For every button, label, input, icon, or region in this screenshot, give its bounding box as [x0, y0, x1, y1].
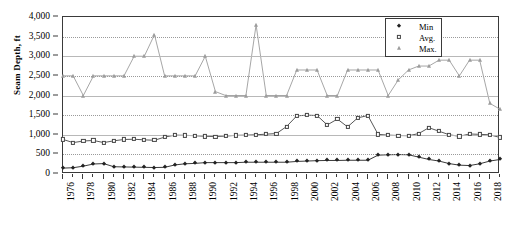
data-point-max	[213, 89, 217, 93]
x-tick-mark	[72, 174, 73, 177]
x-tick-mark	[469, 174, 470, 179]
gridline	[63, 154, 498, 156]
data-point-avg	[224, 134, 228, 138]
data-point-max	[285, 93, 289, 97]
data-point-max	[356, 68, 360, 72]
x-tick-mark	[489, 174, 490, 179]
data-point-max	[305, 68, 309, 72]
data-point-avg	[254, 133, 258, 137]
x-axis-tick-labels: 1976197819801982198419861988199019921994…	[62, 174, 499, 236]
x-tick-label: 1998	[290, 182, 300, 201]
data-point-max	[478, 58, 482, 62]
y-tick-label: 0	[45, 168, 50, 178]
data-point-avg	[132, 137, 136, 141]
data-point-avg	[61, 137, 65, 141]
gridline	[63, 135, 498, 137]
x-tick-label: 1986	[168, 182, 178, 201]
data-point-avg	[417, 131, 421, 135]
y-tick-mark	[53, 153, 58, 154]
y-axis-tick-labels: 05001,0001,5002,0002,5003,0003,5004,000	[0, 16, 58, 173]
data-point-max	[264, 93, 268, 97]
data-point-avg	[478, 132, 482, 136]
x-tick-mark	[123, 174, 124, 179]
x-tick-label: 2006	[371, 182, 381, 201]
legend-label-avg: Avg.	[419, 33, 435, 43]
data-point-avg	[91, 138, 95, 142]
x-tick-label: 2004	[351, 182, 361, 201]
y-tick-label: 4,000	[29, 11, 50, 21]
max-marker-icon	[389, 43, 415, 54]
data-point-avg	[203, 134, 207, 138]
data-point-max	[112, 74, 116, 78]
gridline	[63, 76, 498, 78]
x-tick-mark	[326, 174, 327, 179]
legend-label-max: Max.	[419, 44, 437, 54]
data-point-avg	[467, 132, 471, 136]
y-tick-mark	[53, 133, 58, 134]
data-point-avg	[396, 133, 400, 137]
data-point-avg	[213, 134, 217, 138]
min-marker-icon	[389, 21, 415, 32]
data-point-avg	[152, 138, 156, 142]
data-point-avg	[366, 113, 370, 117]
x-tick-mark	[143, 174, 144, 179]
data-point-avg	[345, 125, 349, 129]
x-tick-mark	[225, 174, 226, 179]
x-tick-mark	[245, 174, 246, 179]
x-tick-label: 2008	[391, 182, 401, 201]
x-tick-label: 1992	[229, 182, 239, 201]
x-tick-mark	[448, 174, 449, 179]
x-tick-mark	[367, 174, 368, 179]
data-point-max	[173, 74, 177, 78]
x-tick-label: 1988	[188, 182, 198, 201]
data-point-avg	[386, 133, 390, 137]
x-tick-mark	[92, 174, 93, 177]
chart-legend: Min Avg. Max.	[385, 18, 442, 57]
y-tick-label: 3,500	[29, 31, 50, 41]
y-tick-label: 500	[36, 148, 50, 158]
x-tick-label: 2000	[310, 182, 320, 201]
y-tick-mark	[53, 173, 58, 174]
data-point-max	[234, 93, 238, 97]
data-point-avg	[81, 139, 85, 143]
y-tick-label: 3,000	[29, 50, 50, 60]
y-tick-label: 2,000	[29, 90, 50, 100]
data-point-avg	[142, 138, 146, 142]
data-point-avg	[102, 141, 106, 145]
x-tick-mark	[153, 174, 154, 177]
x-tick-mark	[336, 174, 337, 177]
y-tick-mark	[53, 16, 58, 17]
y-tick-mark	[53, 55, 58, 56]
data-point-max	[437, 58, 441, 62]
data-point-max	[457, 74, 461, 78]
x-tick-mark	[255, 174, 256, 177]
x-tick-label: 1976	[66, 182, 76, 201]
data-point-avg	[112, 139, 116, 143]
x-tick-mark	[347, 174, 348, 179]
data-point-avg	[488, 133, 492, 137]
data-point-max	[142, 54, 146, 58]
data-point-max	[396, 78, 400, 82]
data-point-max	[335, 93, 339, 97]
data-point-avg	[437, 129, 441, 133]
data-point-max	[315, 68, 319, 72]
data-point-max	[417, 64, 421, 68]
x-tick-mark	[357, 174, 358, 177]
data-point-avg	[71, 141, 75, 145]
y-tick-mark	[53, 94, 58, 95]
data-point-avg	[122, 137, 126, 141]
x-tick-label: 2010	[412, 182, 422, 201]
data-point-max	[81, 93, 85, 97]
data-point-max	[488, 101, 492, 105]
data-point-avg	[315, 113, 319, 117]
data-point-avg	[234, 133, 238, 137]
data-point-avg	[264, 132, 268, 136]
x-tick-mark	[265, 174, 266, 179]
x-tick-label: 1994	[249, 182, 259, 201]
x-tick-mark	[387, 174, 388, 179]
data-point-max	[325, 93, 329, 97]
y-tick-label: 1,000	[29, 129, 50, 139]
x-tick-mark	[235, 174, 236, 177]
data-point-avg	[173, 133, 177, 137]
x-tick-mark	[275, 174, 276, 177]
